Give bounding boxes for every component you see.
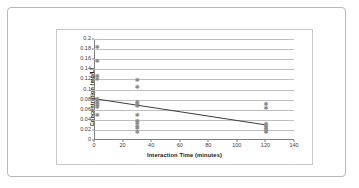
x-axis-title: Interaction Time (minutes)	[57, 152, 312, 158]
y-tick-label: 0.12	[80, 77, 91, 83]
x-tick-label: 100	[232, 143, 241, 149]
data-point	[95, 113, 99, 117]
y-tick-label: 0.06	[80, 107, 91, 113]
data-point	[135, 85, 139, 89]
y-tick-label: 0.18	[80, 46, 91, 52]
data-point	[95, 59, 99, 63]
data-point	[95, 77, 99, 81]
data-point	[263, 106, 267, 110]
x-tick-label: 20	[120, 143, 126, 149]
data-point	[95, 105, 99, 109]
x-tick-label: 120	[261, 143, 270, 149]
figure-frame: Concentration (mg/L) Interaction Time (m…	[7, 7, 346, 177]
chart-plot-box: Concentration (mg/L) Interaction Time (m…	[56, 29, 313, 165]
x-tick-label: 140	[289, 143, 298, 149]
data-point	[263, 130, 267, 134]
plot-area: 00.020.040.060.080.10.120.140.160.180.2 …	[94, 39, 294, 140]
x-tick-label: 60	[177, 143, 183, 149]
data-point	[135, 104, 139, 108]
y-tick-label: 0.16	[80, 56, 91, 62]
y-tick-label: 0.04	[80, 117, 91, 123]
x-tick-label: 0	[92, 143, 95, 149]
x-tick-label: 40	[148, 143, 154, 149]
y-tick-label: 0.02	[80, 127, 91, 133]
data-point	[135, 130, 139, 134]
y-tick-label: 0.2	[83, 36, 91, 42]
y-tick-label: 0	[88, 137, 91, 143]
y-tick-label: 0.1	[83, 87, 91, 93]
data-point	[135, 78, 139, 82]
data-point	[95, 45, 99, 49]
y-tick-label: 0.14	[80, 67, 91, 73]
y-tick-label: 0.08	[80, 97, 91, 103]
x-tick-label: 80	[205, 143, 211, 149]
